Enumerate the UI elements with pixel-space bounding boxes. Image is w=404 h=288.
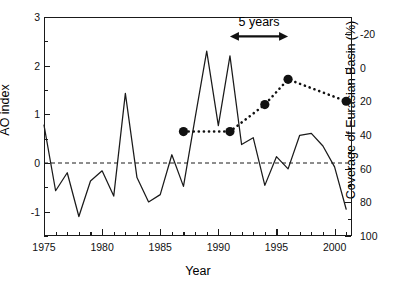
x-axis-title: Year	[44, 264, 352, 278]
y-tick-label-left-1: 1	[14, 109, 40, 120]
y-tick-label-right-100: 100	[360, 231, 378, 242]
x-tick-label-2000: 2000	[323, 242, 346, 253]
x-tick-label-1975: 1975	[32, 242, 55, 253]
x-tick-label-1990: 1990	[207, 242, 230, 253]
coverage-markers-group	[179, 75, 351, 136]
y-minor-tick-left	[44, 236, 48, 237]
x-tick-label-1980: 1980	[90, 242, 113, 253]
coverage-point-1987	[179, 127, 188, 136]
coverage-point-1994	[260, 100, 269, 109]
y-tick-label-right-60: 60	[360, 163, 372, 174]
chart-figure: AO index Coverage of Eurasian Basin (%) …	[0, 0, 404, 288]
x-axis-title-text: Year	[185, 264, 210, 278]
coverage-point-1991	[225, 127, 234, 136]
y-tick-label-right-80: 80	[360, 197, 372, 208]
y-tick-label-right-40: 40	[360, 129, 372, 140]
coverage-point-2001	[342, 97, 351, 106]
y-tick-label-left-0: 0	[14, 158, 40, 169]
y-tick-label-right--20: -20	[360, 28, 375, 39]
y-tick-label-left--1: -1	[14, 206, 40, 217]
five-years-arrow	[230, 32, 288, 41]
y-tick-label-right-20: 20	[360, 96, 372, 107]
arrow-head-right	[279, 32, 288, 41]
x-tick-label-1995: 1995	[265, 242, 288, 253]
five-years-label: 5 years	[239, 15, 280, 29]
y-tick-label-left-3: 3	[14, 12, 40, 23]
chart-canvas	[44, 17, 352, 236]
five-years-label-text: 5 years	[239, 15, 280, 29]
y-axis-left-title: AO index	[0, 0, 12, 219]
coverage-point-1996	[283, 75, 292, 84]
arrow-head-left	[230, 32, 239, 41]
y-tick-label-right-0: 0	[360, 62, 366, 73]
y-tick-right-100	[345, 236, 351, 237]
x-tick-label-1985: 1985	[149, 242, 172, 253]
plot-area: -10123-200204060801001975198019851990199…	[44, 17, 352, 236]
y-tick-label-left-2: 2	[14, 60, 40, 71]
y-axis-left-title-text: AO index	[0, 84, 12, 135]
ao-index-line	[44, 51, 346, 216]
